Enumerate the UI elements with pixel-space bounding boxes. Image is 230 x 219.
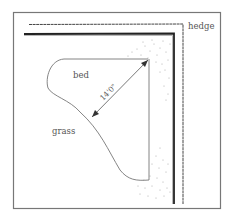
label-bed: bed	[73, 70, 89, 80]
label-dimension: 14'0"	[98, 82, 118, 102]
dimension-line	[92, 60, 148, 117]
label-hedge: hedge	[188, 21, 214, 31]
frame-border	[14, 13, 221, 209]
label-grass: grass	[52, 126, 75, 136]
garden-bed-diagram: hedge bed grass 14'0"	[0, 0, 230, 219]
hedge-outer-line	[29, 24, 183, 204]
stipple-bottom	[138, 148, 171, 199]
hedge-inner-line-shadow	[24, 36, 173, 205]
bed-outline	[47, 59, 149, 180]
